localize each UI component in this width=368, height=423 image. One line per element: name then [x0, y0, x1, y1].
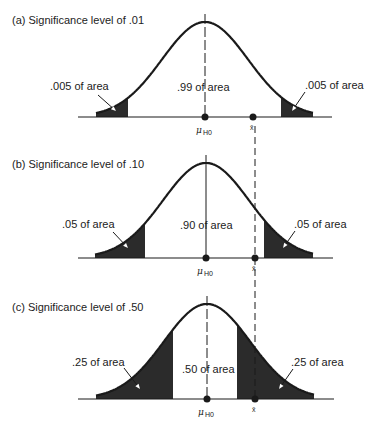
mean-h0-point	[204, 396, 211, 403]
panel-title: (c) Significance level of .50	[12, 301, 143, 313]
mean-h0-label: μ	[197, 266, 203, 276]
mean-h0-subscript: H0	[203, 129, 212, 136]
right-tail-area-label: .005 of area	[305, 79, 365, 91]
right-tail-area-label: .25 of area	[291, 356, 344, 368]
panels-group: μH0x̄(a) Significance level of .01.005 o…	[12, 14, 365, 418]
xbar-label: x̄	[252, 406, 256, 413]
xbar-label: x̄	[250, 124, 254, 131]
mean-h0-point	[202, 114, 209, 121]
panel-b: μH0x̄(b) Significance level of .10.05 of…	[12, 155, 347, 277]
panel-title: (b) Significance level of .10	[12, 158, 144, 170]
left-tail-area-label: .05 of area	[62, 218, 115, 230]
left-tail-area-label: .005 of area	[50, 80, 110, 92]
mean-h0-subscript: H0	[204, 270, 213, 277]
center-area-label: .99 of area	[177, 81, 230, 93]
mean-h0-label: μ	[196, 125, 202, 135]
sample-mean-point	[250, 114, 257, 121]
right-tail-area-label: .05 of area	[294, 218, 347, 230]
mean-h0-subscript: H0	[205, 411, 214, 418]
panel-c: μH0x̄(c) Significance level of .50.25 of…	[12, 296, 344, 418]
panel-title: (a) Significance level of .01	[12, 14, 144, 26]
mean-h0-point	[203, 255, 210, 262]
center-area-label: .90 of area	[180, 219, 233, 231]
left-tail-area-label: .25 of area	[72, 356, 125, 368]
significance-level-diagram: μH0x̄(a) Significance level of .01.005 o…	[0, 0, 368, 423]
center-area-label: .50 of area	[182, 363, 235, 375]
mean-h0-label: μ	[198, 407, 204, 417]
panel-a: μH0x̄(a) Significance level of .01.005 o…	[12, 14, 365, 136]
